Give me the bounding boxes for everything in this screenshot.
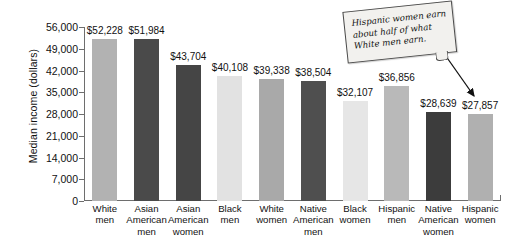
- bar-group[interactable]: $40,108: [217, 27, 242, 201]
- x-axis-label-line: men: [126, 226, 168, 237]
- x-axis-label-line: Native: [418, 203, 460, 214]
- x-axis-label-line: American: [293, 214, 335, 225]
- annotation-callout-text: Hispanic women earnabout half of whatWhi…: [351, 8, 452, 53]
- bar-value-label: $38,504: [295, 68, 331, 78]
- x-axis-label-line: American: [167, 214, 209, 225]
- annotation-callout: Hispanic women earnabout half of whatWhi…: [342, 0, 457, 67]
- y-axis-tick-label: 28,000: [26, 109, 78, 120]
- x-axis-label-line: Asian: [126, 203, 168, 214]
- y-axis-tick-label: 0: [26, 196, 78, 207]
- x-axis-label-line: Native: [293, 203, 335, 214]
- bar-group[interactable]: $39,338: [259, 27, 284, 201]
- x-axis-label-line: Hispanic: [459, 203, 501, 214]
- bar-group[interactable]: $27,857: [468, 27, 493, 201]
- x-axis-label-line: men: [209, 214, 251, 225]
- x-axis-category-label: AsianAmericanmen: [126, 203, 168, 237]
- bar[interactable]: [301, 81, 326, 201]
- x-axis-category-label: NativeAmericanmen: [293, 203, 335, 237]
- bar-value-label: $27,857: [462, 101, 498, 111]
- x-axis-label-line: White: [84, 203, 126, 214]
- x-axis-label-line: women: [459, 214, 501, 225]
- bar[interactable]: [384, 86, 409, 201]
- bar-value-label: $36,856: [379, 73, 415, 83]
- y-axis-tick-mark: [79, 158, 84, 159]
- y-axis-tick-mark: [79, 201, 84, 202]
- bar[interactable]: [259, 79, 284, 201]
- bar[interactable]: [217, 76, 242, 201]
- bar-value-label: $39,338: [254, 66, 290, 76]
- y-axis-tick-mark: [79, 92, 84, 93]
- x-axis-label-line: White: [251, 203, 293, 214]
- x-axis-category-label: Blackwomen: [334, 203, 376, 226]
- bar-value-label: $51,984: [128, 26, 164, 36]
- x-axis-label-line: women: [167, 226, 209, 237]
- bar-value-label: $52,228: [87, 26, 123, 36]
- bar[interactable]: [343, 101, 368, 201]
- bar-value-label: $32,107: [337, 88, 373, 98]
- x-axis-category-label: Whitewomen: [251, 203, 293, 226]
- x-axis-category-label: NativeAmericanwomen: [418, 203, 460, 237]
- bar[interactable]: [176, 65, 201, 201]
- x-axis-label-line: women: [251, 214, 293, 225]
- x-axis-label-line: American: [126, 214, 168, 225]
- bar[interactable]: [468, 114, 493, 201]
- bar[interactable]: [92, 39, 117, 201]
- y-axis-tick-mark: [79, 71, 84, 72]
- x-axis-label-line: Asian: [167, 203, 209, 214]
- bar-value-label: $28,639: [420, 99, 456, 109]
- x-axis-category-labels: WhitemenAsianAmericanmenAsianAmericanwom…: [84, 203, 501, 252]
- bar-group[interactable]: $51,984: [134, 27, 159, 201]
- bar-value-label: $43,704: [170, 52, 206, 62]
- y-axis-tick-label: 21,000: [26, 131, 78, 142]
- x-axis-label-line: men: [84, 214, 126, 225]
- x-axis-category-label: Hispanicmen: [376, 203, 418, 226]
- bar-group[interactable]: $43,704: [176, 27, 201, 201]
- y-axis-tick-label: 7,000: [26, 174, 78, 185]
- bar-chart: Median income (dollars) 07,00014,00021,0…: [0, 0, 522, 252]
- bar-value-label: $40,108: [212, 63, 248, 73]
- y-axis-tick-mark: [79, 136, 84, 137]
- y-axis-tick-label: 14,000: [26, 153, 78, 164]
- y-axis-tick-mark: [79, 114, 84, 115]
- x-axis-category-label: Whitemen: [84, 203, 126, 226]
- y-axis-tick-label: 42,000: [26, 66, 78, 77]
- x-axis-label-line: men: [376, 214, 418, 225]
- x-axis-label-line: American: [418, 214, 460, 225]
- y-axis-tick-mark: [79, 27, 84, 28]
- bar[interactable]: [134, 39, 159, 201]
- y-axis-tick-label: 56,000: [26, 22, 78, 33]
- y-axis-tick-labels: 07,00014,00021,00028,00035,00042,00049,0…: [26, 0, 78, 252]
- x-axis-category-label: Hispanicwomen: [459, 203, 501, 226]
- bar-group[interactable]: $52,228: [92, 27, 117, 201]
- bar[interactable]: [426, 112, 451, 201]
- y-axis-tick-label: 49,000: [26, 44, 78, 55]
- x-axis-category-label: AsianAmericanwomen: [167, 203, 209, 237]
- bar-group[interactable]: $38,504: [301, 27, 326, 201]
- x-axis-label-line: men: [293, 226, 335, 237]
- x-axis-category-label: Blackmen: [209, 203, 251, 226]
- x-axis-label-line: Black: [209, 203, 251, 214]
- y-axis-tick-mark: [79, 179, 84, 180]
- x-axis-label-line: women: [334, 214, 376, 225]
- x-axis-label-line: Hispanic: [376, 203, 418, 214]
- y-axis-tick-mark: [79, 49, 84, 50]
- x-axis-label-line: Black: [334, 203, 376, 214]
- x-axis-label-line: women: [418, 226, 460, 237]
- y-axis-tick-label: 35,000: [26, 87, 78, 98]
